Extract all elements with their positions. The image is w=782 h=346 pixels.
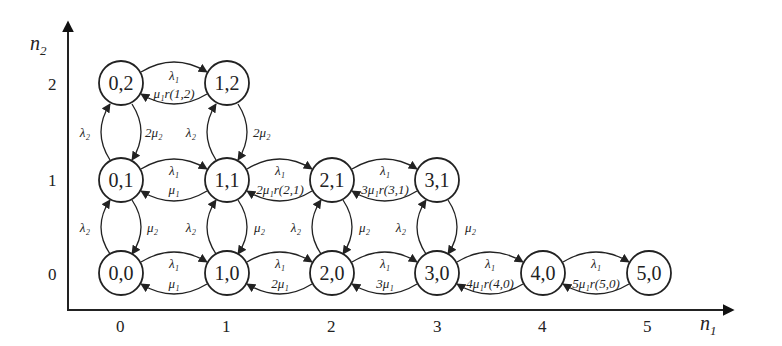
rate-label: λ₂ bbox=[185, 220, 197, 235]
edge-2,1-to-2,0 bbox=[343, 200, 352, 254]
x-tick-3: 3 bbox=[433, 317, 442, 336]
rate-label: λ₂ bbox=[185, 125, 197, 140]
edge-1,2-to-1,1 bbox=[238, 104, 247, 160]
edge-0,2-to-0,1 bbox=[132, 104, 141, 160]
state-2,1: 2,1 bbox=[310, 158, 354, 202]
svg-text:0,0: 0,0 bbox=[109, 262, 134, 284]
y-tick-2: 2 bbox=[48, 75, 57, 94]
svg-text:5,0: 5,0 bbox=[637, 262, 662, 284]
rate-label: λ₁ bbox=[379, 163, 390, 178]
state-1,0: 1,0 bbox=[205, 251, 249, 295]
svg-text:3,0: 3,0 bbox=[425, 262, 450, 284]
y-axis-title: n2 bbox=[30, 32, 47, 58]
rate-label: 2μ₂ bbox=[253, 125, 271, 140]
x-tick-4: 4 bbox=[538, 317, 547, 336]
state-1,1: 1,1 bbox=[205, 158, 249, 202]
state-2,0: 2,0 bbox=[310, 251, 354, 295]
rate-label: 5μ₁r(5,0) bbox=[572, 276, 620, 291]
svg-text:2,0: 2,0 bbox=[320, 262, 345, 284]
markov-chain-diagram: n2 n1 2 1 0 0 1 2 3 4 5 bbox=[0, 0, 782, 346]
edge-0,1-to-0,0 bbox=[132, 200, 141, 254]
edge-2,0-to-2,1 bbox=[312, 200, 321, 254]
state-0,1: 0,1 bbox=[99, 158, 143, 202]
rate-label: μ₂ bbox=[146, 220, 159, 235]
rate-label: 2μ₁ bbox=[271, 276, 289, 291]
edge-1,0-to-1,1 bbox=[207, 200, 216, 254]
state-0,2: 0,2 bbox=[99, 61, 143, 105]
state-3,0: 3,0 bbox=[415, 251, 459, 295]
x-tick-0: 0 bbox=[116, 317, 125, 336]
rate-label: 3μ₁r(3,1) bbox=[360, 182, 409, 197]
rate-label: λ₂ bbox=[79, 125, 91, 140]
rate-label: λ₁ bbox=[590, 256, 601, 271]
y-tick-0: 0 bbox=[48, 265, 57, 284]
edge-3,0-to-3,1 bbox=[417, 200, 426, 254]
rate-label: λ₁ bbox=[379, 256, 390, 271]
rate-label: λ₁ bbox=[168, 68, 179, 83]
rate-label: λ₁ bbox=[274, 256, 285, 271]
rate-label: μ₁ bbox=[167, 182, 179, 197]
state-3,1: 3,1 bbox=[415, 158, 459, 202]
svg-text:4,0: 4,0 bbox=[531, 262, 556, 284]
svg-text:0,1: 0,1 bbox=[109, 169, 134, 191]
rate-label: λ₂ bbox=[395, 220, 407, 235]
svg-text:1,0: 1,0 bbox=[215, 262, 240, 284]
rate-label: μ₂ bbox=[253, 220, 266, 235]
edge-0,1-to-0,2 bbox=[101, 104, 110, 160]
edge-0,0-to-0,1 bbox=[101, 200, 110, 254]
rate-label: 2μ₁r(2,1) bbox=[256, 182, 304, 197]
svg-text:3,1: 3,1 bbox=[425, 169, 450, 191]
svg-text:2,1: 2,1 bbox=[320, 169, 345, 191]
x-tick-5: 5 bbox=[643, 317, 652, 336]
rate-label: 3μ₁ bbox=[375, 276, 394, 291]
rate-label: μ₂ bbox=[464, 220, 477, 235]
x-tick-2: 2 bbox=[327, 317, 336, 336]
rate-label: μ₂ bbox=[358, 220, 371, 235]
rate-label: λ₂ bbox=[290, 220, 302, 235]
x-axis-title: n1 bbox=[700, 312, 717, 338]
state-0,0: 0,0 bbox=[99, 251, 143, 295]
y-tick-1: 1 bbox=[48, 171, 57, 190]
svg-text:0,2: 0,2 bbox=[109, 72, 134, 94]
svg-text:1,1: 1,1 bbox=[215, 169, 240, 191]
rate-label: 4μ₁r(4,0) bbox=[466, 276, 514, 291]
rate-label: λ₁ bbox=[484, 256, 495, 271]
state-5,0: 5,0 bbox=[627, 251, 671, 295]
state-4,0: 4,0 bbox=[521, 251, 565, 295]
edge-3,1-to-3,0 bbox=[448, 200, 457, 254]
x-tick-1: 1 bbox=[222, 317, 231, 336]
edge-1,1-to-1,0 bbox=[238, 200, 247, 254]
rate-label: λ₁ bbox=[274, 163, 285, 178]
rate-label: λ₂ bbox=[79, 220, 91, 235]
state-1,2: 1,2 bbox=[205, 61, 249, 105]
edge-1,1-to-1,2 bbox=[207, 104, 216, 160]
rate-label: λ₁ bbox=[168, 163, 179, 178]
rate-label: μ₁r(1,2) bbox=[152, 86, 194, 101]
svg-text:1,2: 1,2 bbox=[215, 72, 240, 94]
rate-label: μ₁ bbox=[167, 276, 179, 291]
rate-label: 2μ₂ bbox=[145, 125, 163, 140]
rate-label: λ₁ bbox=[168, 256, 179, 271]
